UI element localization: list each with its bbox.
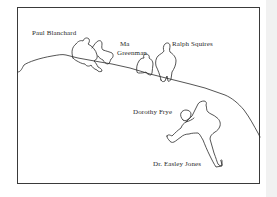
ma-greenman-figure: [137, 54, 153, 75]
hill-ridge-line: [18, 55, 260, 137]
label-ralph-squires: Ralph Squires: [172, 40, 213, 48]
easley-jones-figure: [167, 101, 222, 167]
paul-blanchard-figure: [72, 38, 102, 72]
label-greenman: Greenman: [117, 49, 147, 57]
label-paul-blanchard: Paul Blanchard: [32, 29, 76, 37]
dorothy-frye-figure: [181, 110, 191, 121]
label-easley-jones: Dr. Easley Jones: [153, 160, 201, 168]
label-ma: Ma: [120, 40, 130, 48]
label-dorothy-frye: Dorothy Frye: [133, 108, 172, 116]
